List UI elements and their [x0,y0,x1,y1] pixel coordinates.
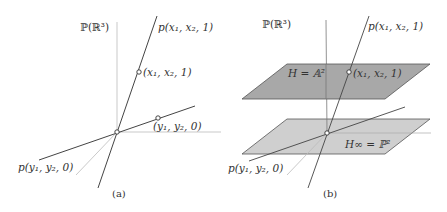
line-point-label-b: p(x₁, x₂, 1) [368,20,423,32]
line-inf-label-a: p(y₁, y₂, 0) [18,161,73,173]
panel-b: ℙ(ℝ³) p(x₁, x₂, 1) H = 𝔸² (x₁, x₂, 1) H∞… [228,16,431,199]
origin-point [115,130,119,134]
line-point-label-a: p(x₁, x₂, 1) [158,21,213,33]
plane-upper-label: H = 𝔸² [287,67,325,79]
line-p-x1-x2-1 [98,16,157,188]
plane-lower-label: H∞ = ℙ² [344,138,390,150]
light-diagonal [76,132,117,175]
figure: ℙ(ℝ³) p(x₁, x₂, 1) (x₁, x₂, 1) (y₁, y₂, … [0,0,447,212]
panel-a: ℙ(ℝ³) p(x₁, x₂, 1) (x₁, x₂, 1) (y₁, y₂, … [18,16,221,199]
line-inf-label-b: p(y₁, y₂, 0) [228,162,283,174]
space-label-b: ℙ(ℝ³) [262,18,291,30]
point-x1-x2-1 [137,70,141,74]
line-p-x1-x2-1-b [308,16,369,188]
point-label-b: (x₁, x₂, 1) [353,67,402,79]
point-label-a: (x₁, x₂, 1) [143,66,192,78]
caption-a: (a) [112,188,126,199]
plane-h-affine [242,64,430,99]
caption-b: (b) [323,188,337,199]
origin-point-b [325,131,329,135]
plane-h-infinity [242,119,430,154]
space-label-a: ℙ(ℝ³) [80,21,109,33]
point-x1-x2-1-b [347,70,351,74]
point-inf-label-a: (y₁, y₂, 0) [153,120,202,132]
